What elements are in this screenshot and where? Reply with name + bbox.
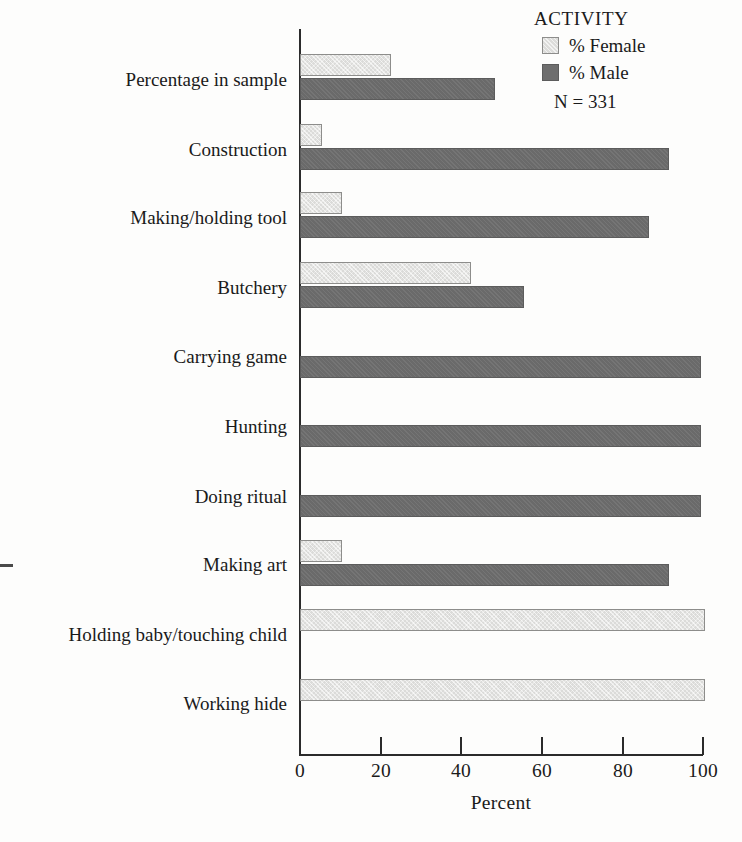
category-label-butchery: Butchery xyxy=(217,277,287,298)
x-tick-label-20: 20 xyxy=(371,760,391,782)
category-label-percentage-in-sample: Percentage in sample xyxy=(126,69,287,90)
x-tick-20 xyxy=(380,737,382,755)
x-tick-label-60: 60 xyxy=(532,760,552,782)
x-tick-label-40: 40 xyxy=(451,760,471,782)
legend-item-female: % Female xyxy=(532,33,646,58)
bar-female-working-hide xyxy=(300,679,705,701)
category-label-hunting: Hunting xyxy=(225,416,287,437)
legend-label-female: % Female xyxy=(569,33,646,58)
category-label-doing-ritual: Doing ritual xyxy=(195,486,287,507)
bar-female-construction xyxy=(300,124,322,146)
legend-swatch-male-icon xyxy=(542,64,559,81)
category-label-working-hide: Working hide xyxy=(184,693,287,714)
bar-female-holding-baby-touching-child xyxy=(300,609,705,631)
bar-male-construction xyxy=(300,148,669,170)
bar-female-butchery xyxy=(300,262,471,284)
bar-male-hunting xyxy=(300,425,701,447)
bar-male-doing-ritual xyxy=(300,495,701,517)
bar-female-making-holding-tool xyxy=(300,192,342,214)
legend-item-male: % Male xyxy=(532,60,646,85)
x-tick-label-100: 100 xyxy=(688,760,718,782)
category-label-holding-baby-touching-child: Holding baby/touching child xyxy=(69,624,287,645)
x-axis-title: Percent xyxy=(299,792,703,814)
legend-sample-size: N = 331 xyxy=(532,89,646,114)
bar-male-making-holding-tool xyxy=(300,216,649,238)
category-label-carrying-game: Carrying game xyxy=(174,346,287,367)
x-tick-label-80: 80 xyxy=(613,760,633,782)
x-tick-0 xyxy=(299,737,301,755)
x-tick-100 xyxy=(702,737,704,755)
legend-label-male: % Male xyxy=(569,60,629,85)
bar-male-butchery xyxy=(300,286,524,308)
x-axis-line xyxy=(299,754,703,756)
category-label-making-holding-tool: Making/holding tool xyxy=(130,207,287,228)
legend: ACTIVITY % Female % Male N = 331 xyxy=(532,6,646,114)
bar-female-percentage-in-sample xyxy=(300,54,391,76)
page-edge-dash-artifact xyxy=(0,564,13,567)
x-tick-80 xyxy=(622,737,624,755)
bar-male-making-art xyxy=(300,564,669,586)
bar-female-making-art xyxy=(300,540,342,562)
category-label-construction: Construction xyxy=(189,139,287,160)
bar-chart-figure: 0 20 40 60 80 100 Percent Percentage in … xyxy=(0,0,742,842)
x-tick-label-0: 0 xyxy=(295,760,305,782)
legend-title: ACTIVITY xyxy=(532,6,646,31)
x-tick-60 xyxy=(541,737,543,755)
legend-swatch-female-icon xyxy=(542,37,559,54)
category-label-making-art: Making art xyxy=(203,554,287,575)
bar-male-percentage-in-sample xyxy=(300,78,495,100)
x-tick-40 xyxy=(460,737,462,755)
bar-male-carrying-game xyxy=(300,356,701,378)
